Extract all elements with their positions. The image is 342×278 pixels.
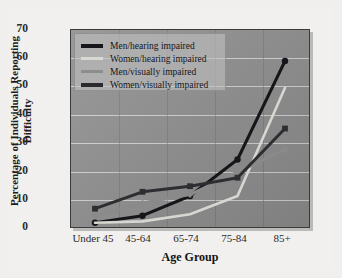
y-tick-30: 30 — [0, 135, 28, 147]
legend-label-women-visual: Women/visually impaired — [110, 80, 208, 90]
legend-swatch-women-visual — [81, 83, 103, 87]
data-point — [139, 200, 146, 207]
y-tick-70: 70 — [0, 22, 28, 34]
data-point — [235, 175, 241, 181]
y-tick-10: 10 — [0, 192, 28, 204]
plot-area: Men/hearing impaired Women/hearing impai… — [70, 29, 310, 228]
y-tick-50: 50 — [0, 78, 28, 90]
data-point — [234, 156, 240, 162]
y-tick-40: 40 — [0, 107, 28, 119]
y-tick-0: 0 — [0, 220, 28, 232]
data-point — [139, 213, 145, 219]
legend-item-men-visual: Men/visually impaired — [81, 65, 225, 78]
data-point — [187, 183, 193, 189]
legend: Men/hearing impaired Women/hearing impai… — [74, 33, 226, 91]
legend-label-men-visual: Men/visually impaired — [110, 67, 196, 77]
data-point — [282, 58, 288, 64]
data-point — [140, 189, 146, 195]
y-tick-60: 60 — [0, 50, 28, 62]
legend-label-women-hearing: Women/hearing impaired — [110, 54, 207, 64]
legend-swatch-women-hearing — [81, 57, 103, 60]
y-tick-20: 20 — [0, 164, 28, 176]
data-point — [92, 212, 99, 219]
legend-item-women-visual: Women/visually impaired — [81, 78, 225, 91]
legend-swatch-men-visual — [81, 70, 103, 74]
legend-item-women-hearing: Women/hearing impaired — [81, 52, 225, 65]
x-axis-title: Age Group — [70, 250, 310, 265]
data-point — [282, 126, 288, 132]
x-tick-85plus: 85+ — [252, 232, 312, 244]
legend-label-men-hearing: Men/hearing impaired — [110, 41, 195, 51]
series-2 — [95, 88, 285, 223]
legend-item-men-hearing: Men/hearing impaired — [81, 39, 225, 52]
series-line — [95, 88, 285, 223]
chart-page: Percentage of Individuals Reporting Diff… — [0, 0, 342, 278]
legend-swatch-men-hearing — [81, 44, 103, 48]
data-point — [92, 206, 98, 212]
